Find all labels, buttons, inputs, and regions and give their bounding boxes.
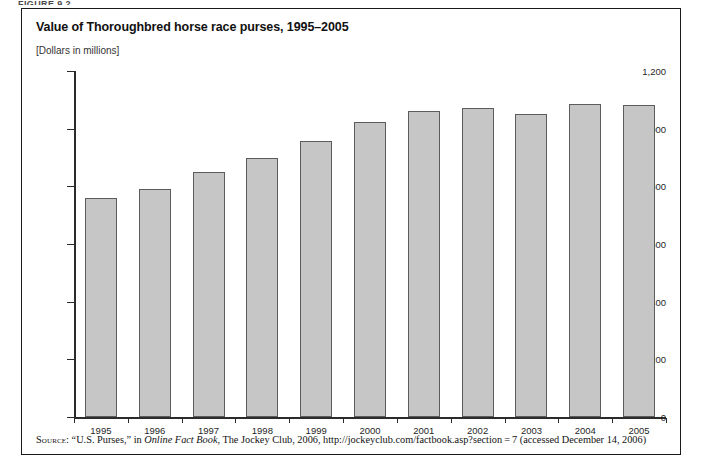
y-axis-tick <box>67 186 74 187</box>
source-text-1: “U.S. Purses,” in <box>69 434 144 445</box>
y-axis-tick <box>67 417 74 418</box>
y-axis-tick <box>67 129 74 130</box>
bar-series <box>74 67 666 422</box>
bar-2002 <box>462 108 494 417</box>
cut-off-figure-label: FIGURE 9.2 <box>18 0 88 5</box>
bar-2003 <box>515 114 547 417</box>
x-axis-tick <box>182 418 183 423</box>
bar-1998 <box>246 158 278 418</box>
source-label: Source: <box>36 434 69 445</box>
y-axis-tick <box>67 244 74 245</box>
x-axis-tick <box>235 418 236 423</box>
x-axis-tick <box>397 418 398 423</box>
page-title: Value of Thoroughbred horse race purses,… <box>36 20 349 34</box>
y-axis-tick <box>67 302 74 303</box>
bar-2005 <box>623 105 655 417</box>
x-axis-tick <box>612 418 613 423</box>
y-axis-tick <box>67 359 74 360</box>
x-axis-tick <box>128 418 129 423</box>
x-axis-tick <box>289 418 290 423</box>
x-axis-tick <box>505 418 506 423</box>
y-axis-tick <box>67 71 74 72</box>
bar-2000 <box>354 122 386 417</box>
source-note: Source: “U.S. Purses,” in Online Fact Bo… <box>36 433 668 446</box>
chart-plot-area: 02004006008001,0001,200 1995199619971998… <box>36 67 666 422</box>
source-book-title: Online Fact Book <box>144 434 217 445</box>
x-axis-tick <box>343 418 344 423</box>
x-axis-tick <box>666 418 667 423</box>
units-note: [Dollars in millions] <box>36 45 119 56</box>
bar-1996 <box>139 189 171 417</box>
x-axis-tick <box>451 418 452 423</box>
x-axis-tick <box>558 418 559 423</box>
figure-frame: Value of Thoroughbred horse race purses,… <box>21 8 681 455</box>
x-axis-tick <box>74 418 75 423</box>
bar-2001 <box>408 111 440 417</box>
source-text-2: , The Jockey Club, 2006, http://jockeycl… <box>217 434 646 445</box>
bar-1995 <box>85 198 117 417</box>
bar-1997 <box>193 172 225 417</box>
bar-2004 <box>569 104 601 417</box>
bar-1999 <box>300 141 332 417</box>
